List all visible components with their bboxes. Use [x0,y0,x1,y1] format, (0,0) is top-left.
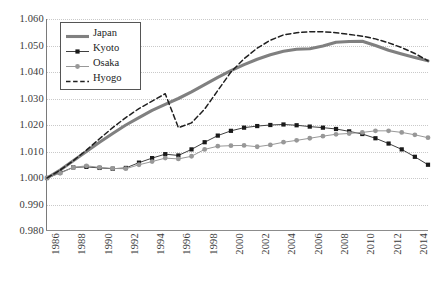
x-axis-tick-label: 1994 [156,233,167,255]
data-point [321,126,325,130]
x-axis-tick-label: 1992 [130,233,141,255]
data-point [294,138,299,143]
data-point [203,140,207,144]
legend-item-label: Japan [93,28,117,39]
y-axis-tick-label: 1.050 [0,41,44,52]
y-axis-tick-label: 0.990 [0,200,44,211]
data-point [307,136,312,141]
line-chart: 1.0601.0501.0401.0301.0201.0101.0000.990… [0,0,433,286]
chart-legend: JapanKyotoOsakaHyogo [60,22,141,90]
data-point [255,124,259,128]
data-point [242,126,246,130]
data-point [400,147,404,151]
data-point [202,147,207,152]
legend-item-label: Hyogo [93,73,122,84]
x-axis-tick-label: 1990 [104,233,115,255]
data-point [386,128,391,133]
legend-item-japan: Japan [61,26,140,41]
data-point [268,123,272,127]
data-point [137,162,142,167]
data-point [229,129,233,133]
data-point [399,130,404,135]
legend-item-label: Kyoto [93,43,119,54]
data-point [413,155,417,159]
data-point [334,132,339,137]
data-point [110,166,115,171]
y-axis-tick-label: 1.020 [0,120,44,131]
data-point [295,123,299,127]
data-point [386,141,390,145]
x-axis-tick-label: 2006 [314,233,325,255]
data-point [334,127,338,131]
legend-item-kyoto: Kyoto [61,41,140,56]
y-axis-tick-label: 1.030 [0,94,44,105]
data-point [360,130,365,135]
data-point [242,143,247,148]
y-axis-tick-label: 1.010 [0,147,44,158]
data-point [347,131,352,136]
x-axis-tick-label: 2004 [287,233,298,255]
data-point [268,142,273,147]
data-point [229,143,234,148]
legend-item-label: Osaka [93,58,119,69]
series-line [47,124,428,178]
y-axis-labels: 1.0601.0501.0401.0301.0201.0101.0000.990… [0,19,44,231]
x-axis-tick-label: 2000 [235,233,246,255]
data-point [255,144,260,149]
data-point [150,159,155,164]
x-axis-labels: 1986198819901992199419961998200020022004… [47,233,428,285]
legend-item-osaka: Osaka [61,56,140,71]
data-point [163,152,167,156]
data-point [215,144,220,149]
x-axis-tick-label: 2012 [393,233,404,255]
legend-key-icon [65,58,90,69]
legend-key-icon [65,73,90,84]
data-point [321,134,326,139]
x-axis-tick-label: 1998 [209,233,220,255]
x-axis-tick-label: 2014 [419,233,430,255]
data-point [412,132,417,137]
data-point [163,156,168,161]
legend-key-icon [65,43,90,54]
data-point [176,157,181,162]
data-point [281,122,285,126]
legend-key-icon [65,28,90,39]
data-point [216,134,220,138]
y-axis-tick-label: 1.000 [0,173,44,184]
data-point [189,147,193,151]
data-point [84,163,89,168]
data-point [308,124,312,128]
data-point [426,135,431,140]
data-point [281,140,286,145]
x-axis-tick-label: 1986 [51,233,62,255]
data-point [123,166,128,171]
data-point [373,136,377,140]
y-axis-tick-label: 1.040 [0,67,44,78]
data-point [426,163,430,167]
data-point [97,165,102,170]
x-axis-tick-label: 2010 [366,233,377,255]
y-axis-tick-label: 0.980 [0,226,44,237]
y-axis-tick-label: 1.060 [0,14,44,25]
data-point [189,154,194,159]
x-axis-tick-label: 2008 [340,233,351,255]
x-axis-tick-label: 2002 [261,233,272,255]
x-axis-tick-label: 1988 [77,233,88,255]
data-point [71,165,76,170]
data-point [373,128,378,133]
legend-item-hyogo: Hyogo [61,71,140,86]
x-axis-tick-label: 1996 [182,233,193,255]
